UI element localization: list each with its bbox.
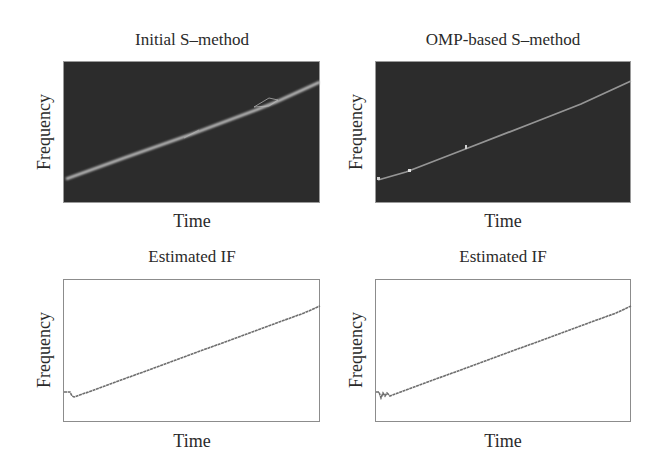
- x-axis-label: Time: [484, 431, 521, 452]
- y-axis-label: Frequency: [346, 94, 367, 170]
- tfd-ridge-graphic: [64, 62, 321, 204]
- panel-title: Estimated IF: [148, 247, 235, 267]
- y-axis-label: Frequency: [346, 312, 367, 388]
- y-axis-label: Frequency: [34, 312, 55, 388]
- if-plot-area: [375, 279, 631, 422]
- x-axis-label: Time: [173, 431, 210, 452]
- x-axis-label: Time: [484, 211, 521, 232]
- tfd-plot-area: [63, 61, 320, 203]
- x-axis-label: Time: [173, 211, 210, 232]
- if-plot-area: [63, 279, 320, 422]
- y-axis-label: Frequency: [34, 94, 55, 170]
- panel-title: Estimated IF: [459, 247, 546, 267]
- panel-title: Initial S–method: [135, 30, 249, 50]
- if-line-graphic: [64, 280, 321, 423]
- if-line-graphic: [376, 280, 632, 423]
- panel-title: OMP-based S–method: [426, 30, 580, 50]
- tfd-plot-area: [375, 61, 631, 203]
- tfd-ridge-graphic: [376, 62, 632, 204]
